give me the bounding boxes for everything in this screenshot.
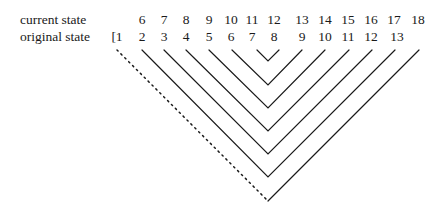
v-line-3-13 [164, 50, 372, 154]
v-line-5-11 [209, 50, 325, 108]
dotted-line-1 [117, 50, 268, 201]
outer-right-line [268, 50, 419, 201]
nested-v-diagram [0, 0, 448, 219]
v-line-7-9 [257, 50, 279, 61]
v-line-6-10 [232, 50, 302, 85]
